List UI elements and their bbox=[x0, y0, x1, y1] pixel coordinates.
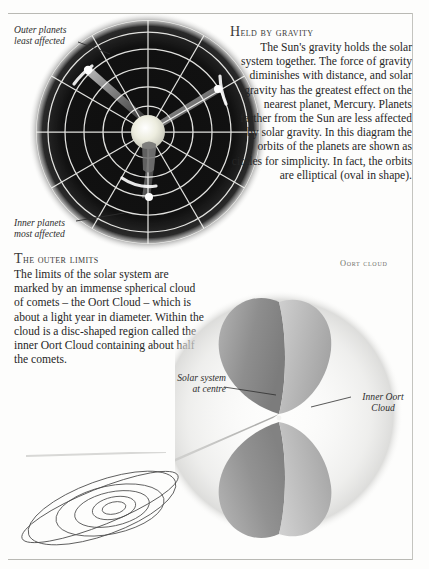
inset-plane-edge bbox=[26, 452, 166, 456]
callout-outer-line1: Outer planets bbox=[14, 24, 110, 35]
encyclopedia-page: Outer planets least affected Inner plane… bbox=[0, 0, 429, 569]
planet-middle bbox=[214, 85, 222, 93]
comet-orbit-ellipses bbox=[16, 456, 185, 556]
callout-outer-leader-line bbox=[78, 38, 174, 62]
solar-centre-line2: at centre bbox=[160, 383, 226, 394]
held-by-gravity-section: Held by gravity The Sun's gravity holds … bbox=[230, 24, 412, 183]
inner-oort-line2: Cloud bbox=[352, 402, 414, 413]
callout-outer-planets: Outer planets least affected bbox=[14, 24, 110, 47]
heading-initial: H bbox=[230, 24, 241, 39]
callout-inner-leader-line bbox=[76, 213, 186, 233]
inner-oort-leader-line bbox=[311, 395, 353, 409]
heading-initial: T bbox=[14, 251, 23, 266]
solar-centre-leader-line bbox=[224, 383, 284, 399]
oort-cloud-heading: Oort cloud bbox=[340, 259, 387, 268]
comet-orbit-inset bbox=[16, 452, 206, 556]
callout-inner-planets: Inner planets most affected bbox=[14, 217, 110, 240]
inner-oort-line1: Inner Oort bbox=[352, 391, 414, 402]
solar-centre-line1: Solar system bbox=[160, 372, 226, 383]
solar-system-centre-point bbox=[277, 416, 282, 421]
label-solar-system-at-centre: Solar system at centre bbox=[160, 372, 226, 395]
held-by-gravity-body: The Sun's gravity holds the solar system… bbox=[230, 41, 412, 183]
label-inner-oort-cloud: Inner Oort Cloud bbox=[352, 391, 414, 414]
sun-shadow bbox=[142, 142, 156, 173]
planet-outer bbox=[84, 66, 92, 74]
heading-rest: eld by gravity bbox=[241, 26, 314, 38]
heading-rest: he outer limits bbox=[23, 253, 99, 265]
planet-inner bbox=[145, 193, 153, 201]
held-by-gravity-heading: Held by gravity bbox=[230, 24, 412, 40]
